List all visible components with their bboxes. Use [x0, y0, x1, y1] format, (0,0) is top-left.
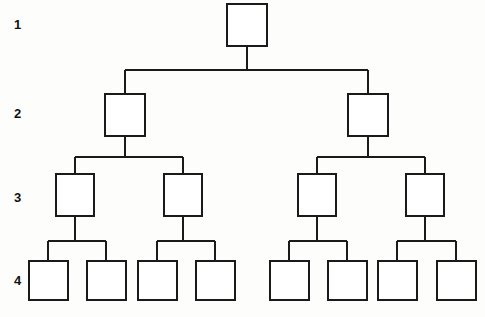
- tree-node-level3-1[interactable]: [56, 174, 94, 216]
- connector-edges-group: [48, 46, 456, 261]
- tree-node-level4-7[interactable]: [378, 261, 417, 300]
- tree-nodes-group: [29, 4, 476, 300]
- tree-node-level3-4[interactable]: [406, 174, 444, 216]
- tree-node-level3-2[interactable]: [164, 174, 202, 216]
- tree-node-level1-1[interactable]: [227, 4, 267, 46]
- tree-node-level4-6[interactable]: [328, 261, 367, 300]
- tree-diagram-svg: [0, 0, 485, 317]
- tree-node-level4-8[interactable]: [437, 261, 476, 300]
- tree-node-level2-2[interactable]: [348, 94, 388, 136]
- level-label-3: 3: [14, 191, 21, 204]
- tree-node-level3-3[interactable]: [298, 174, 336, 216]
- tree-node-level2-1[interactable]: [105, 94, 145, 136]
- tree-diagram-canvas: 1234: [0, 0, 485, 317]
- tree-node-level4-1[interactable]: [29, 261, 68, 300]
- level-label-2: 2: [14, 107, 21, 120]
- level-label-1: 1: [14, 18, 21, 31]
- tree-node-level4-5[interactable]: [270, 261, 309, 300]
- level-label-4: 4: [14, 274, 21, 287]
- tree-node-level4-2[interactable]: [87, 261, 126, 300]
- tree-node-level4-3[interactable]: [138, 261, 177, 300]
- tree-node-level4-4[interactable]: [196, 261, 235, 300]
